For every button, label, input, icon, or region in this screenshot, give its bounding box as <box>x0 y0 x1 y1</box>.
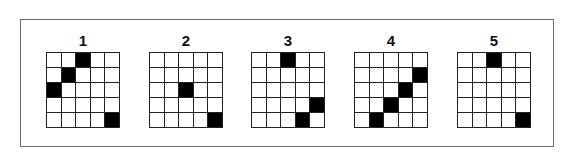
panel-4: 4 <box>353 32 429 128</box>
grid-cell-filled <box>179 83 193 97</box>
grid-cell <box>458 53 472 67</box>
grid-cell-filled <box>370 113 384 127</box>
grid-cell <box>413 83 427 97</box>
grid-cell <box>399 68 413 82</box>
grid-cell <box>252 98 266 112</box>
grid-cell-filled <box>105 113 119 127</box>
grid-cell <box>76 68 90 82</box>
grid-cell <box>516 53 530 67</box>
grid-cell <box>413 113 427 127</box>
panel-5: 5 <box>456 32 532 128</box>
grid-cell-filled <box>296 113 310 127</box>
grid-cell <box>355 113 369 127</box>
grid-cell <box>165 53 179 67</box>
grid <box>354 52 428 128</box>
grid-cell <box>473 113 487 127</box>
panel-label: 4 <box>353 32 429 52</box>
grid-cell <box>281 83 295 97</box>
grid-cell <box>179 98 193 112</box>
grid-cell <box>399 113 413 127</box>
grid-cell <box>179 53 193 67</box>
grid-cell <box>76 98 90 112</box>
grid-cell <box>150 68 164 82</box>
grid-cell <box>502 98 516 112</box>
grid-cell <box>62 113 76 127</box>
grid <box>251 52 325 128</box>
grid-cell <box>91 98 105 112</box>
grid-cell <box>296 98 310 112</box>
panel-label: 1 <box>45 32 121 52</box>
grid-cell <box>91 83 105 97</box>
grid-cell <box>47 68 61 82</box>
grid-cell <box>47 98 61 112</box>
grid-cell <box>384 113 398 127</box>
grid-cell <box>150 83 164 97</box>
grid-cell <box>105 53 119 67</box>
grid-cell <box>458 113 472 127</box>
grid-cell <box>516 98 530 112</box>
grid-cell <box>502 113 516 127</box>
grid-cell <box>150 53 164 67</box>
grid-cell <box>370 53 384 67</box>
grid-cell-filled <box>384 98 398 112</box>
grid-cell <box>105 83 119 97</box>
grid-cell-filled <box>310 98 324 112</box>
grid-cell-filled <box>62 68 76 82</box>
grid-cell-filled <box>76 53 90 67</box>
grid-cell <box>252 83 266 97</box>
grid-cell <box>208 98 222 112</box>
grid-cell <box>194 68 208 82</box>
grid-cell <box>267 53 281 67</box>
grid-cell <box>62 53 76 67</box>
grid-cell <box>296 68 310 82</box>
grid-cell <box>62 83 76 97</box>
grid-cell <box>165 113 179 127</box>
grid-cell <box>516 68 530 82</box>
grid-cell <box>310 83 324 97</box>
panel-label: 2 <box>148 32 224 52</box>
grid-cell <box>473 68 487 82</box>
grid-cell <box>91 113 105 127</box>
grid-cell <box>310 113 324 127</box>
grid-cell <box>355 98 369 112</box>
grid-cell <box>208 68 222 82</box>
grid-cell <box>179 68 193 82</box>
grid-cell <box>267 113 281 127</box>
grid-cell <box>473 98 487 112</box>
grid-cell <box>91 68 105 82</box>
grid-cell <box>502 53 516 67</box>
grid-cell <box>502 83 516 97</box>
grid-cell-filled <box>487 53 501 67</box>
grid-cell <box>252 53 266 67</box>
grid <box>149 52 223 128</box>
grid-cell <box>502 68 516 82</box>
grid-cell <box>281 98 295 112</box>
grid-cell <box>252 68 266 82</box>
grid-cell <box>47 113 61 127</box>
grid-cell <box>194 53 208 67</box>
grid-cell <box>165 98 179 112</box>
grid <box>46 52 120 128</box>
grid-cell <box>296 83 310 97</box>
grid-cell-filled <box>516 113 530 127</box>
grid-cell <box>76 113 90 127</box>
grid-cell <box>355 53 369 67</box>
grid-cell <box>370 83 384 97</box>
grid-cell <box>194 98 208 112</box>
grid-cell <box>267 83 281 97</box>
grid-cell <box>487 68 501 82</box>
grid-cell <box>384 53 398 67</box>
grid-cell <box>47 53 61 67</box>
panel-1: 1 <box>45 32 121 128</box>
grid-cell <box>208 53 222 67</box>
grid-cell <box>355 68 369 82</box>
grid-cell <box>516 83 530 97</box>
grid-cell <box>194 83 208 97</box>
grid-cell-filled <box>413 68 427 82</box>
grid-cell <box>384 68 398 82</box>
grid-cell <box>281 68 295 82</box>
grid-cell <box>458 68 472 82</box>
grid <box>457 52 531 128</box>
grid-cell <box>150 113 164 127</box>
grid-cell <box>487 83 501 97</box>
